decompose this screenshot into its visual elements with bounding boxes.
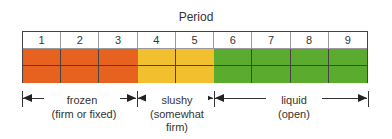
liquid-cell xyxy=(214,49,252,66)
period-header-5: 5 xyxy=(176,32,214,49)
frozen-cell xyxy=(99,66,137,83)
diagram-title: Period xyxy=(0,10,392,24)
slushy-label-desc-2: firm) xyxy=(143,121,211,134)
period-header-9: 9 xyxy=(329,32,367,49)
slushy-cell xyxy=(176,49,214,66)
period-header-8: 8 xyxy=(291,32,329,49)
slushy-label: slushy xyxy=(146,94,208,107)
arrow-right-icon xyxy=(358,94,367,102)
frozen-label-title: frozen xyxy=(47,94,117,107)
period-header-4: 4 xyxy=(138,32,176,49)
frozen-cell xyxy=(23,66,61,83)
slushy-sublabel: (somewhat firm) xyxy=(140,108,214,134)
period-grid: 1 2 3 4 5 6 7 8 9 xyxy=(22,31,368,83)
period-header-6: 6 xyxy=(214,32,252,49)
liquid-cell xyxy=(291,66,329,83)
slushy-cell xyxy=(138,49,176,66)
period-header-2: 2 xyxy=(61,32,99,49)
frozen-sublabel: (firm or fixed) xyxy=(40,108,128,121)
liquid-cell xyxy=(329,49,367,66)
slushy-label-desc-1: (somewhat xyxy=(143,108,211,121)
liquid-label-title: liquid xyxy=(269,94,319,107)
liquid-cell xyxy=(252,66,290,83)
frozen-cell xyxy=(61,49,99,66)
period-header-1: 1 xyxy=(23,32,61,49)
liquid-label: liquid xyxy=(266,94,322,107)
slushy-cell xyxy=(176,66,214,83)
period-header-3: 3 xyxy=(99,32,137,49)
liquid-cell xyxy=(329,66,367,83)
range-tick xyxy=(368,91,369,107)
liquid-cell xyxy=(291,49,329,66)
frozen-label: frozen xyxy=(44,94,120,107)
arrow-right-icon xyxy=(127,94,136,102)
slushy-label-title: slushy xyxy=(149,94,205,107)
liquid-cell xyxy=(214,66,252,83)
frozen-cell xyxy=(23,49,61,66)
period-header-7: 7 xyxy=(252,32,290,49)
slushy-cell xyxy=(138,66,176,83)
arrow-left-icon xyxy=(23,94,32,102)
liquid-sublabel: (open) xyxy=(266,108,322,121)
frozen-cell xyxy=(61,66,99,83)
liquid-cell xyxy=(252,49,290,66)
liquid-label-desc: (open) xyxy=(269,108,319,121)
frozen-label-desc: (firm or fixed) xyxy=(43,108,125,121)
arrow-left-icon xyxy=(215,94,224,102)
frozen-cell xyxy=(99,49,137,66)
